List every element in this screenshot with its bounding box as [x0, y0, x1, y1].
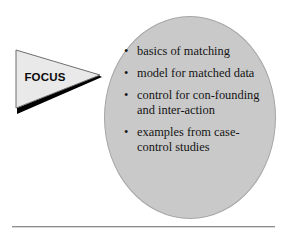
focus-banner-label: FOCUS	[17, 71, 73, 83]
focus-bullet-list: • basics of matching • model for matched…	[123, 44, 269, 155]
bullet-marker: •	[124, 125, 128, 140]
bullet-marker: •	[124, 88, 128, 103]
list-item-label: model for matched data	[137, 66, 269, 81]
list-item-label: control for con-founding and inter-actio…	[137, 88, 269, 118]
bullet-marker: •	[124, 44, 128, 59]
figure-canvas: FOCUS • basics of matching • model for m…	[0, 0, 287, 235]
list-item-label: basics of matching	[137, 44, 269, 59]
bullet-marker: •	[124, 66, 128, 81]
list-item: • examples from case-control studies	[123, 125, 269, 155]
focus-ellipse: • basics of matching • model for matched…	[104, 16, 276, 219]
bottom-divider	[12, 226, 275, 228]
list-item: • control for con-founding and inter-act…	[123, 88, 269, 118]
focus-banner: FOCUS	[10, 44, 106, 118]
list-item-label: examples from case-control studies	[137, 125, 269, 155]
list-item: • model for matched data	[123, 66, 269, 81]
list-item: • basics of matching	[123, 44, 269, 59]
